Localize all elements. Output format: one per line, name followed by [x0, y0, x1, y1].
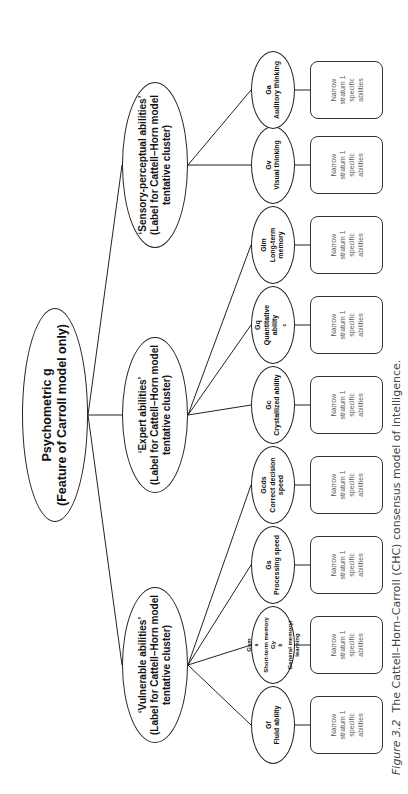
node-subtitle: (Feature of Carroll model only) — [55, 324, 70, 506]
figure-caption: Figure 3.2 The Cattell–Horn–Carroll (CHC… — [390, 360, 403, 775]
vulnerable-abilities-node: ‘Vulnerable abilities’(Label for Cattell… — [122, 587, 188, 743]
narrow-abilities-box: Narrowstratum 1specificabilities — [310, 216, 383, 274]
box-text: abilities — [356, 150, 365, 179]
sensory-perceptual-abilities-node: ‘Sensory-perceptual abilities’(Label for… — [122, 82, 188, 248]
ability-code: Gy — [270, 617, 277, 673]
box-text: specific — [347, 230, 356, 259]
box-text: stratum 1 — [338, 630, 347, 659]
box-text: specific — [347, 630, 356, 659]
ability-code: Gq — [254, 305, 263, 345]
box-text: Narrow — [329, 75, 338, 104]
box-text: Narrow — [329, 150, 338, 179]
box-text: abilities — [356, 75, 365, 104]
ability-node-glm: GlmLong-termmemory — [251, 206, 295, 284]
node-title: Psychometric g — [40, 324, 55, 506]
ability-node-gq: GqQuantitativeabilityc — [251, 286, 295, 364]
box-text: stratum 1 — [338, 710, 347, 739]
narrow-abilities-box: Narrowstratum 1specificabilities — [310, 696, 383, 754]
box-text: Narrow — [329, 550, 338, 579]
ability-node-gc: GcCrystallized ability — [251, 366, 295, 444]
node-subtitle: (Label for Cattell–Horn model — [149, 95, 161, 235]
box-text: Narrow — [329, 470, 338, 499]
box-text: specific — [347, 550, 356, 579]
ability-name: Processing speed — [273, 535, 282, 595]
node-subtitle: tentative cluster) — [161, 95, 173, 235]
node-title: ‘Sensory-perceptual abilities’ — [137, 95, 149, 235]
narrow-abilities-box: Narrowstratum 1specificabilities — [310, 456, 383, 514]
ability-name: ability — [271, 305, 280, 345]
narrow-abilities-box: Narrowstratum 1specificabilities — [310, 136, 383, 194]
ability-node-gf: GfFluid ability — [251, 686, 295, 764]
ability-name: General memory/ — [287, 617, 294, 673]
box-text: specific — [347, 150, 356, 179]
box-text: specific — [347, 470, 356, 499]
ability-name: Auditory thinking — [273, 61, 282, 119]
ability-name: Quantitative — [263, 305, 272, 345]
node-title: ‘Expert abilities’ — [137, 345, 149, 485]
box-text: stratum 1 — [338, 150, 347, 179]
box-text: stratum 1 — [338, 230, 347, 259]
ability-node-gs: GsProcessing speed — [251, 526, 295, 604]
ability-name: Fluid ability — [273, 706, 282, 745]
box-text: abilities — [356, 230, 365, 259]
narrow-abilities-box: Narrowstratum 1specificabilities — [310, 616, 383, 674]
ability-name: memory — [277, 228, 286, 263]
ability-name: Short-term memory — [263, 617, 270, 673]
figure-label: Figure 3.2 — [390, 719, 403, 775]
box-text: abilities — [356, 630, 365, 659]
box-text: Narrow — [329, 630, 338, 659]
node-title: ‘Vulnerable abilities’ — [137, 595, 149, 735]
caption-text: The Cattell–Horn–Carroll (CHC) consensus… — [390, 360, 403, 713]
narrow-abilities-box: Narrowstratum 1specificabilities — [310, 376, 383, 434]
ability-node-gsm-gy: GsmaShort-term memoryGybGeneral memory/l… — [251, 606, 295, 684]
ability-code: Gsm — [246, 617, 253, 673]
box-text: specific — [347, 710, 356, 739]
box-text: abilities — [356, 310, 365, 339]
box-text: stratum 1 — [338, 550, 347, 579]
box-text: Narrow — [329, 710, 338, 739]
ability-node-ga: GaAuditory thinking — [251, 51, 295, 129]
chc-diagram: Psychometric g(Feature of Carroll model … — [0, 0, 408, 794]
ability-name: Visual thinking — [273, 140, 282, 190]
ability-code: Glm — [260, 228, 269, 263]
box-text: abilities — [356, 390, 365, 419]
box-text: stratum 1 — [338, 470, 347, 499]
box-text: Narrow — [329, 230, 338, 259]
ability-node-gcds: GcdsCorrect decisionspeed — [251, 446, 295, 524]
ability-name: speed — [277, 457, 286, 512]
narrow-abilities-box: Narrowstratum 1specificabilities — [310, 296, 383, 354]
expert-abilities-node: ‘Expert abilities’(Label for Cattell–Hor… — [122, 337, 188, 493]
ability-code: Gv — [265, 140, 274, 190]
node-subtitle: (Label for Cattell–Horn model — [149, 595, 161, 735]
ability-name: Crystallized ability — [273, 374, 282, 435]
ability-code: Gcds — [260, 457, 269, 512]
narrow-abilities-box: Narrowstratum 1specificabilities — [310, 536, 383, 594]
footnote-marker: c — [281, 324, 287, 327]
ability-code: Gs — [265, 535, 274, 595]
node-subtitle: tentative cluster) — [161, 595, 173, 735]
box-text: stratum 1 — [338, 75, 347, 104]
box-text: specific — [347, 310, 356, 339]
ability-code: Gf — [265, 706, 274, 745]
ability-node-gv: GvVisual thinking — [251, 126, 295, 204]
narrow-abilities-box: Narrowstratum 1specificabilities — [310, 61, 383, 119]
box-text: stratum 1 — [338, 310, 347, 339]
ability-code: Ga — [265, 61, 274, 119]
box-text: stratum 1 — [338, 390, 347, 419]
footnote-marker: b — [277, 643, 283, 646]
ability-name: Correct decision — [269, 457, 278, 512]
node-subtitle: (Label for Cattell–Horn model — [149, 345, 161, 485]
ability-name: learning — [294, 617, 301, 673]
box-text: abilities — [356, 550, 365, 579]
box-text: Narrow — [329, 390, 338, 419]
box-text: specific — [347, 75, 356, 104]
node-subtitle: tentative cluster) — [161, 345, 173, 485]
box-text: abilities — [356, 470, 365, 499]
box-text: Narrow — [329, 310, 338, 339]
psychometric-g-node: Psychometric g(Feature of Carroll model … — [22, 308, 88, 522]
ability-name: Long-term — [269, 228, 278, 263]
ability-code: Gc — [265, 374, 274, 435]
footnote-marker: a — [253, 644, 259, 647]
box-text: specific — [347, 390, 356, 419]
box-text: abilities — [356, 710, 365, 739]
